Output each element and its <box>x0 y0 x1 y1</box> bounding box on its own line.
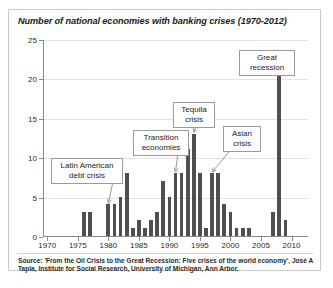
y-tick-label-5: 5 <box>33 193 37 202</box>
annotation-great-recession: Great recession <box>239 50 295 76</box>
x-tick-label-1995: 1995 <box>191 241 209 250</box>
y-tick-label-0: 0 <box>33 233 37 242</box>
footer-divider <box>17 253 313 254</box>
annotation-tequila-crisis: Tequila crisis <box>173 102 215 128</box>
plot-area: 0510152025 19701975198019851990199520002… <box>43 40 308 237</box>
x-tick-label-1990: 1990 <box>160 241 178 250</box>
chart-figure: Number of national economies with bankin… <box>8 9 321 271</box>
y-tick-0 <box>39 237 43 238</box>
x-tick-label-1985: 1985 <box>130 241 148 250</box>
annotation-asian-crisis: Asian crisis <box>223 126 261 152</box>
y-tick-label-15: 15 <box>28 114 37 123</box>
y-tick-label-10: 10 <box>28 154 37 163</box>
x-tick-label-1975: 1975 <box>69 241 87 250</box>
x-tick-label-1970: 1970 <box>38 241 56 250</box>
source-note: Source: 'From the Oil Crisis to the Grea… <box>18 257 315 274</box>
annotation-transition-economies: Transition economies <box>133 130 189 156</box>
y-tick-label-20: 20 <box>28 75 37 84</box>
x-tick-label-2005: 2005 <box>252 241 270 250</box>
x-tick-label-1980: 1980 <box>99 241 117 250</box>
chart-title: Number of national economies with bankin… <box>18 16 318 26</box>
annotation-latin-american-debt-crisis: Latin American debt crisis <box>51 158 123 184</box>
x-tick-label-2000: 2000 <box>222 241 240 250</box>
x-tick-label-2010: 2010 <box>283 241 301 250</box>
y-tick-label-25: 25 <box>28 36 37 45</box>
